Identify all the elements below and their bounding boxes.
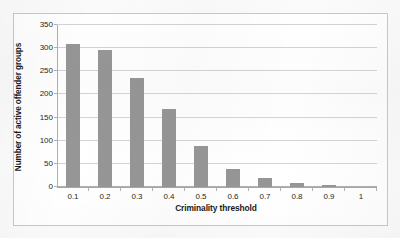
bar	[258, 178, 271, 187]
bar-slot	[89, 25, 121, 187]
x-axis-tick-mark	[57, 188, 89, 191]
bar	[98, 50, 111, 187]
bars-group	[57, 25, 377, 187]
x-axis-tick-label: 0.4	[153, 192, 185, 201]
bar-slot	[217, 25, 249, 187]
bar-slot	[121, 25, 153, 187]
x-axis-tick-labels: 0.10.20.30.40.50.60.70.80.91	[57, 192, 377, 201]
bar-slot	[249, 25, 281, 187]
bar-slot	[185, 25, 217, 187]
bar	[226, 169, 239, 187]
x-axis-tick-label: 0.6	[217, 192, 249, 201]
y-axis-tick-label: 300	[40, 43, 53, 52]
bar	[194, 146, 207, 187]
x-axis-tick-mark	[345, 188, 377, 191]
x-axis-tick-label: 0.2	[89, 192, 121, 201]
bar-slot	[57, 25, 89, 187]
y-axis-tick-label: 250	[40, 66, 53, 75]
x-axis-tick-mark	[153, 188, 185, 191]
x-axis-tick-mark	[313, 188, 345, 191]
x-axis-tick-mark	[217, 188, 249, 191]
x-axis-tick-label: 0.9	[313, 192, 345, 201]
y-axis-title: Number of active offender groups	[11, 32, 25, 182]
x-axis-tick-label: 0.1	[57, 192, 89, 201]
y-axis-tick-label: 50	[44, 158, 53, 167]
bar-slot	[281, 25, 313, 187]
bar-slot	[153, 25, 185, 187]
x-axis-tick-label: 1	[345, 192, 377, 201]
y-axis-tick-label: 350	[40, 20, 53, 29]
x-axis-tick-mark	[249, 188, 281, 191]
bar-slot	[313, 25, 345, 187]
plot-area: 050100150200250300350	[57, 25, 377, 187]
bar-slot	[345, 25, 377, 187]
y-axis-tick-label: 100	[40, 135, 53, 144]
x-axis-tick-label: 0.3	[121, 192, 153, 201]
y-axis-tick-label: 0	[49, 182, 53, 191]
chart-figure-frame: Number of active offender groups 0501001…	[13, 13, 388, 226]
y-axis-tick-label: 150	[40, 112, 53, 121]
bar	[162, 109, 175, 187]
x-axis-title: Criminality threshold	[56, 203, 376, 213]
x-axis-tick-mark	[185, 188, 217, 191]
x-axis-tick-label: 0.8	[281, 192, 313, 201]
bar	[130, 78, 143, 187]
x-axis-tick-label: 0.5	[185, 192, 217, 201]
x-axis-tick-mark	[121, 188, 153, 191]
x-axis-tick-mark	[89, 188, 121, 191]
y-axis-tick-label: 200	[40, 89, 53, 98]
x-axis-tick-marks	[57, 188, 377, 191]
bar	[66, 44, 79, 187]
x-axis-tick-label: 0.7	[249, 192, 281, 201]
x-axis-tick-mark	[281, 188, 313, 191]
